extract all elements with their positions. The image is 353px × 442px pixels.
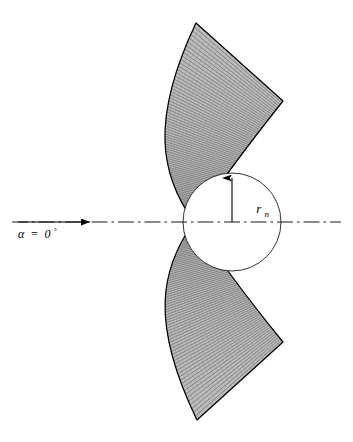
radius-subscript: n xyxy=(265,209,270,219)
equals-sign: = xyxy=(30,227,38,241)
degree-symbol: ° xyxy=(53,227,57,236)
alpha-value: 0 xyxy=(44,227,50,241)
angle-of-attack-label: α = 0 ° xyxy=(18,227,57,241)
figure-root: α = 0 ° r n xyxy=(0,0,353,442)
alpha-symbol: α xyxy=(18,227,25,241)
radius-symbol: r xyxy=(256,201,262,216)
diagram-canvas: α = 0 ° r n xyxy=(0,0,353,442)
